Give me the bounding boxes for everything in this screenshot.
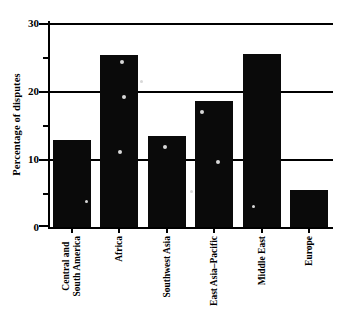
x-axis-tick (118, 227, 120, 233)
x-label-line1: East Asia–Pacific (209, 236, 219, 306)
bar (195, 101, 233, 227)
x-label-africa: Africa (96, 236, 144, 310)
y-tick-label-10: 10 (28, 154, 39, 165)
bar (53, 140, 91, 227)
bar (148, 136, 186, 227)
y-tick-label-30: 30 (28, 18, 39, 29)
y-tick-major-0 (39, 225, 48, 227)
x-label-line1: Southwest Asia (161, 236, 171, 298)
y-tick-major-10 (39, 159, 48, 161)
x-axis-tick (308, 227, 310, 233)
x-label-middle-east: Middle East (238, 236, 286, 310)
x-label-central-and-south-america: Central and South America (48, 236, 96, 310)
y-tick-label-20: 20 (28, 86, 39, 97)
x-label-europe: Europe (286, 236, 334, 310)
x-axis-ticks (48, 227, 333, 234)
y-tick-major-30 (39, 23, 48, 25)
x-label-line2: South America (72, 236, 83, 296)
bar (290, 190, 328, 227)
x-axis-tick (213, 227, 215, 233)
x-axis-category-labels: Central and South America Africa Southwe… (48, 236, 333, 310)
bar (100, 55, 138, 227)
x-label-east-asia-pacific: East Asia–Pacific (191, 236, 239, 310)
plot-area (48, 23, 333, 227)
bar-chart-figure: Percentage of disputes 30 20 10 0 (0, 0, 345, 310)
y-tick-label-0: 0 (34, 222, 40, 233)
x-axis-tick (166, 227, 168, 233)
x-label-line1: Africa (114, 236, 124, 262)
x-axis-tick (71, 227, 73, 233)
x-label-line1: Middle East (256, 236, 266, 285)
x-label-line1: Europe (304, 236, 314, 266)
x-label-southwest-asia: Southwest Asia (143, 236, 191, 310)
x-axis-tick (261, 227, 263, 233)
x-label-line1: Central and (61, 242, 71, 291)
y-tick-major-20 (39, 91, 48, 93)
y-axis-tick-labels: 30 20 10 0 (20, 23, 39, 227)
bar-series (48, 23, 333, 227)
bar (243, 54, 281, 227)
